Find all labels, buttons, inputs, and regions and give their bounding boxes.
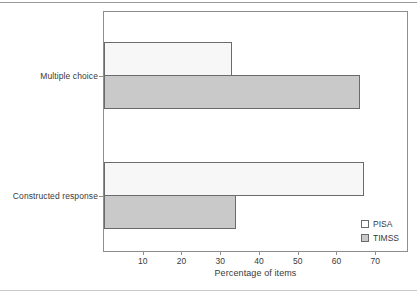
x-axis-tick-label-10: 10 [138, 256, 147, 266]
x-axis-title: Percentage of items [103, 268, 408, 278]
bar-constructed-response-timss [104, 195, 236, 229]
x-axis-tick-50 [298, 251, 299, 255]
x-axis-tick-label-30: 30 [216, 256, 225, 266]
figure: Multiple choice Constructed response 102… [0, 0, 417, 293]
legend-swatch-icon-timss [361, 234, 369, 242]
x-axis-tick-label-70: 70 [370, 256, 379, 266]
legend-item-pisa: PISA [361, 219, 399, 229]
category-label-multiple-choice: Multiple choice [40, 71, 104, 81]
legend-label-pisa: PISA [373, 219, 392, 229]
chart-legend: PISA TIMSS [361, 219, 399, 243]
x-axis-tick-30 [220, 251, 221, 255]
x-axis-tick-label-50: 50 [293, 256, 302, 266]
bottom-rule [0, 290, 417, 291]
legend-item-timss: TIMSS [361, 233, 399, 243]
legend-label-timss: TIMSS [373, 233, 399, 243]
bar-multiple-choice-timss [104, 75, 360, 109]
top-rule [0, 2, 417, 3]
bar-multiple-choice-pisa [104, 42, 232, 76]
x-axis-tick-70 [375, 251, 376, 255]
x-axis-tick-label-40: 40 [254, 256, 263, 266]
plot-surface: Multiple choice Constructed response 102… [104, 12, 407, 251]
x-axis-tick-60 [336, 251, 337, 255]
x-axis-tick-label-20: 20 [177, 256, 186, 266]
legend-swatch-icon-pisa [361, 220, 369, 228]
category-label-constructed-response: Constructed response [13, 191, 104, 201]
x-axis-tick-20 [181, 251, 182, 255]
x-axis-tick-40 [259, 251, 260, 255]
x-axis-tick-label-60: 60 [332, 256, 341, 266]
bar-constructed-response-pisa [104, 162, 364, 196]
plot-frame: Multiple choice Constructed response 102… [103, 11, 408, 252]
x-axis-tick-10 [143, 251, 144, 255]
